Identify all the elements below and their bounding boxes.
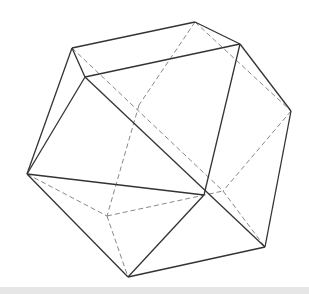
visible-edge bbox=[128, 195, 204, 277]
diagram-canvas bbox=[0, 0, 309, 294]
visible-edge bbox=[85, 77, 265, 247]
visible-edge bbox=[27, 174, 204, 195]
hidden-edge bbox=[107, 216, 128, 277]
visible-edge bbox=[72, 48, 85, 77]
hidden-edge bbox=[107, 191, 223, 216]
visible-edge bbox=[85, 44, 240, 77]
bottom-band bbox=[0, 287, 309, 294]
hidden-edge bbox=[223, 191, 265, 247]
hidden-edge bbox=[223, 111, 291, 191]
hidden-edge bbox=[27, 174, 107, 216]
polyhedron-figure bbox=[0, 0, 309, 294]
visible-edge bbox=[72, 22, 195, 48]
visible-edge bbox=[27, 174, 128, 277]
hidden-edge bbox=[195, 22, 291, 111]
hidden-edge bbox=[107, 105, 139, 216]
visible-edge bbox=[195, 22, 240, 44]
hidden-edge bbox=[72, 48, 223, 191]
visible-edge bbox=[240, 44, 291, 111]
visible-edge bbox=[204, 44, 240, 195]
visible-edge bbox=[128, 247, 265, 277]
visible-edge bbox=[265, 111, 291, 247]
